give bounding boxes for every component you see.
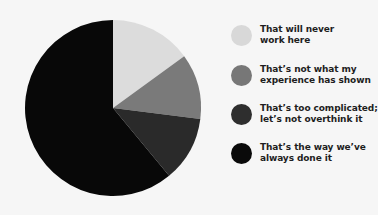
legend-swatch-circle-icon (231, 104, 252, 125)
pie-chart: That will never work here That’s not wha… (0, 0, 378, 215)
legend-swatch-circle-icon (231, 65, 252, 86)
legend: That will never work here That’s not wha… (229, 0, 378, 215)
legend-item-too-complicated: That’s too complicated; let’s not overth… (229, 102, 378, 128)
legend-item-always-done: That’s the way we’ve always done it (229, 141, 378, 167)
legend-label-line: That will never (260, 24, 378, 35)
pie-chart-plot (0, 0, 220, 215)
legend-label-line: experience has shown (260, 75, 378, 86)
legend-item-never-work: That will never work here (229, 23, 378, 49)
legend-label-line: let’s not overthink it (260, 114, 378, 125)
legend-item-not-my-experience: That’s not what my experience has shown (229, 63, 378, 89)
legend-label: That will never work here (260, 24, 378, 46)
legend-label: That’s the way we’ve always done it (260, 142, 378, 164)
legend-swatch-circle-icon (231, 143, 252, 164)
legend-label: That’s not what my experience has shown (260, 64, 378, 86)
legend-label-line: work here (260, 35, 378, 46)
legend-label-line: That’s the way we’ve (260, 142, 378, 153)
legend-label: That’s too complicated; let’s not overth… (260, 103, 378, 125)
legend-label-line: That’s not what my (260, 64, 378, 75)
legend-label-line: That’s too complicated; (260, 103, 378, 114)
legend-swatch-circle-icon (231, 25, 252, 46)
legend-label-line: always done it (260, 153, 378, 164)
